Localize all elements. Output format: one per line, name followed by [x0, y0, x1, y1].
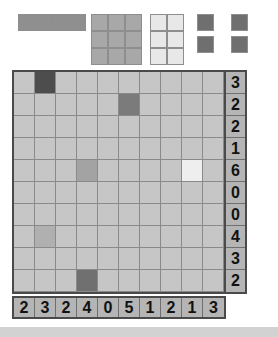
grid-cell-empty[interactable] [14, 270, 35, 292]
grid-cell-empty[interactable] [56, 160, 77, 182]
grid-cell-empty[interactable] [77, 248, 98, 270]
grid-cell-empty[interactable] [161, 94, 182, 116]
grid-cell-empty[interactable] [77, 94, 98, 116]
grid-cell-empty[interactable] [140, 72, 161, 94]
grid-cell-empty[interactable] [182, 204, 203, 226]
grid-cell-empty[interactable] [98, 270, 119, 292]
grid-cell-empty[interactable] [140, 138, 161, 160]
grid-cell-empty[interactable] [14, 248, 35, 270]
grid-cell-empty[interactable] [98, 72, 119, 94]
grid-cell-empty[interactable] [182, 248, 203, 270]
grid-cell-empty[interactable] [161, 204, 182, 226]
grid-cell-empty[interactable] [161, 138, 182, 160]
grid-cell-empty[interactable] [35, 94, 56, 116]
grid-cell-filled[interactable] [35, 72, 56, 94]
grid-cell-empty[interactable] [161, 116, 182, 138]
grid-cell-empty[interactable] [98, 204, 119, 226]
grid-cell-empty[interactable] [98, 94, 119, 116]
grid-cell-empty[interactable] [203, 116, 224, 138]
grid-cell-empty[interactable] [98, 138, 119, 160]
grid-cell-empty[interactable] [140, 204, 161, 226]
grid-cell-empty[interactable] [35, 204, 56, 226]
grid-cell-empty[interactable] [182, 94, 203, 116]
grid-cell-empty[interactable] [161, 160, 182, 182]
grid-cell-empty[interactable] [14, 138, 35, 160]
grid-cell-empty[interactable] [182, 138, 203, 160]
grid-cell-empty[interactable] [56, 270, 77, 292]
grid-cell-empty[interactable] [56, 72, 77, 94]
grid-cell-empty[interactable] [119, 160, 140, 182]
grid-cell-empty[interactable] [203, 94, 224, 116]
grid-cell-empty[interactable] [14, 182, 35, 204]
grid-cell-empty[interactable] [98, 248, 119, 270]
grid-cell-empty[interactable] [182, 72, 203, 94]
grid-cell-empty[interactable] [182, 270, 203, 292]
grid-cell-empty[interactable] [35, 160, 56, 182]
grid-cell-filled[interactable] [77, 160, 98, 182]
grid-cell-empty[interactable] [161, 182, 182, 204]
grid-cell-empty[interactable] [203, 248, 224, 270]
tray-piece-bar-1x4[interactable] [18, 14, 86, 31]
grid-cell-empty[interactable] [14, 116, 35, 138]
grid-cell-empty[interactable] [119, 138, 140, 160]
grid-cell-empty[interactable] [56, 138, 77, 160]
grid-cell-empty[interactable] [35, 182, 56, 204]
grid-cell-empty[interactable] [14, 72, 35, 94]
grid-cell-empty[interactable] [56, 182, 77, 204]
tray-piece-single-square-3[interactable] [197, 36, 214, 53]
grid-cell-empty[interactable] [35, 116, 56, 138]
grid-cell-empty[interactable] [119, 204, 140, 226]
grid-cell-empty[interactable] [140, 226, 161, 248]
grid-cell-empty[interactable] [98, 182, 119, 204]
grid-cell-empty[interactable] [14, 204, 35, 226]
tray-piece-single-square-4[interactable] [231, 36, 248, 53]
grid-cell-filled[interactable] [77, 270, 98, 292]
tray-piece-single-square-1[interactable] [197, 14, 214, 31]
grid-cell-empty[interactable] [119, 226, 140, 248]
grid-cell-empty[interactable] [161, 72, 182, 94]
grid-cell-empty[interactable] [98, 160, 119, 182]
tray-piece-block-3x3[interactable] [91, 14, 142, 65]
grid-cell-empty[interactable] [56, 248, 77, 270]
grid-cell-filled[interactable] [182, 160, 203, 182]
grid-cell-empty[interactable] [77, 138, 98, 160]
grid-cell-empty[interactable] [140, 270, 161, 292]
grid-cell-empty[interactable] [140, 116, 161, 138]
grid-cell-empty[interactable] [56, 204, 77, 226]
grid-cell-empty[interactable] [56, 116, 77, 138]
grid-cell-empty[interactable] [182, 226, 203, 248]
grid-cell-filled[interactable] [119, 94, 140, 116]
grid-cell-empty[interactable] [77, 72, 98, 94]
tray-piece-single-square-2[interactable] [231, 14, 248, 31]
grid-cell-empty[interactable] [203, 226, 224, 248]
grid-cell-empty[interactable] [77, 226, 98, 248]
grid-cell-empty[interactable] [77, 182, 98, 204]
grid-cell-empty[interactable] [14, 160, 35, 182]
grid-cell-empty[interactable] [119, 182, 140, 204]
grid-cell-filled[interactable] [35, 226, 56, 248]
grid-cell-empty[interactable] [203, 160, 224, 182]
grid-cell-empty[interactable] [119, 72, 140, 94]
grid-cell-empty[interactable] [182, 182, 203, 204]
grid-cell-empty[interactable] [182, 116, 203, 138]
grid-cell-empty[interactable] [56, 226, 77, 248]
grid-cell-empty[interactable] [14, 226, 35, 248]
grid-cell-empty[interactable] [203, 270, 224, 292]
grid-cell-empty[interactable] [119, 248, 140, 270]
puzzle-board[interactable]: 3221600432 [12, 70, 247, 294]
grid-cell-empty[interactable] [119, 116, 140, 138]
grid-cell-empty[interactable] [140, 160, 161, 182]
grid-cell-empty[interactable] [161, 270, 182, 292]
grid-cell-empty[interactable] [140, 248, 161, 270]
grid-cell-empty[interactable] [35, 138, 56, 160]
grid-cell-empty[interactable] [203, 204, 224, 226]
grid-cell-empty[interactable] [161, 248, 182, 270]
grid-cell-empty[interactable] [161, 226, 182, 248]
grid-cell-empty[interactable] [14, 94, 35, 116]
grid-cell-empty[interactable] [35, 270, 56, 292]
grid-cell-empty[interactable] [77, 204, 98, 226]
grid-cell-empty[interactable] [140, 182, 161, 204]
grid-cell-empty[interactable] [203, 138, 224, 160]
grid-cell-empty[interactable] [77, 116, 98, 138]
grid-cell-empty[interactable] [203, 182, 224, 204]
